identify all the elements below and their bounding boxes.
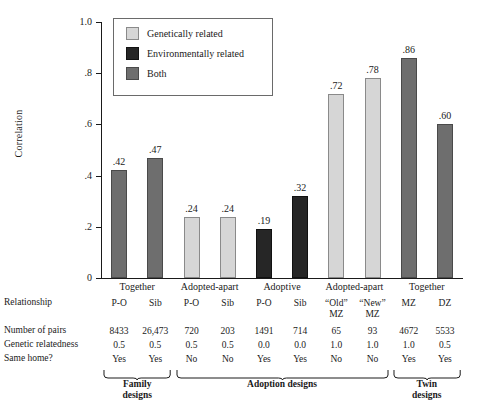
bar-value-label: .72 — [318, 81, 354, 91]
design-group-brace-icon — [176, 366, 389, 376]
bar-value-label: .78 — [355, 65, 391, 75]
design-group-brace-icon — [393, 366, 461, 376]
bar — [147, 158, 163, 278]
y-axis-title: Correlation — [13, 89, 24, 179]
bar — [401, 58, 417, 278]
bar-value-label: .60 — [427, 111, 463, 121]
bar — [328, 94, 344, 278]
bar-value-label: .86 — [391, 45, 427, 55]
legend-swatch-genetic-icon — [126, 27, 139, 40]
cell-relationship: DZ — [419, 298, 471, 308]
y-tick-mark — [96, 278, 102, 279]
correlation-bar-chart-figure: Correlation 0.2.4.6.81.0 .42.47.24.24.19… — [0, 0, 477, 412]
legend-label-both: Both — [147, 69, 166, 79]
design-group-name: Adoption designs — [212, 379, 352, 390]
legend-item-environment: Environmentally related — [126, 47, 272, 60]
y-tick-label: .4 — [66, 171, 92, 181]
design-group-name: Twindesigns — [357, 379, 477, 401]
y-tick-label: .8 — [66, 68, 92, 78]
legend-label-environment: Environmentally related — [147, 49, 244, 59]
row-label-number-of-pairs: Number of pairs — [4, 326, 66, 336]
bar — [437, 124, 453, 278]
cell-number-of-pairs: 5533 — [419, 326, 471, 336]
bar — [365, 78, 381, 278]
group-heading: Together — [377, 282, 477, 292]
bar-value-label: .32 — [282, 183, 318, 193]
cell-genetic-relatedness: 0.5 — [419, 340, 471, 350]
bar — [111, 170, 127, 278]
x-axis-line — [101, 278, 463, 279]
design-group-name: Familydesigns — [67, 379, 207, 401]
legend-swatch-both-icon — [126, 67, 139, 80]
bar — [256, 229, 272, 278]
bar-value-label: .19 — [246, 216, 282, 226]
data-table: Relationship Number of pairs Genetic rel… — [0, 280, 477, 412]
row-label-genetic-relatedness: Genetic relatedness — [4, 340, 78, 350]
chart-legend: Genetically related Environmentally rela… — [113, 18, 273, 96]
plot-area: Correlation 0.2.4.6.81.0 .42.47.24.24.19… — [0, 0, 477, 285]
cell-same-home: Yes — [419, 354, 471, 364]
legend-swatch-environment-icon — [126, 47, 139, 60]
bar — [184, 217, 200, 278]
bar-value-label: .24 — [210, 204, 246, 214]
row-label-same-home: Same home? — [4, 354, 53, 364]
y-tick-label: .2 — [66, 222, 92, 232]
design-group-brace-icon — [103, 366, 171, 376]
bar-value-label: .42 — [101, 157, 137, 167]
y-tick-label: .6 — [66, 119, 92, 129]
row-label-relationship: Relationship — [4, 298, 52, 308]
bar-value-label: .47 — [137, 145, 173, 155]
legend-item-both: Both — [126, 67, 272, 80]
legend-item-genetic: Genetically related — [126, 27, 272, 40]
bar-value-label: .24 — [174, 204, 210, 214]
legend-label-genetic: Genetically related — [147, 29, 223, 39]
bar — [292, 196, 308, 278]
y-tick-label: 1.0 — [66, 17, 92, 27]
bar — [220, 217, 236, 278]
